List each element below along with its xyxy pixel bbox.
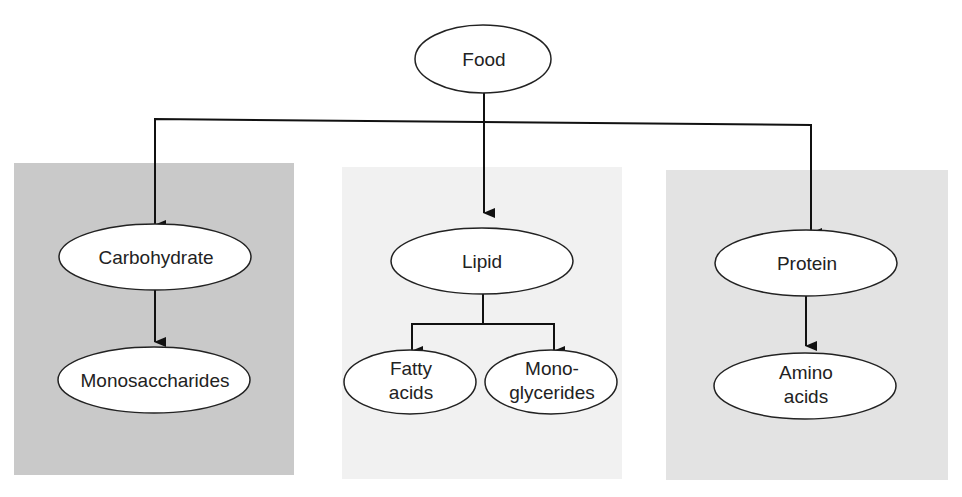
- mono-label: Mono-: [525, 358, 579, 379]
- carbohydrate-label: Carbohydrate: [98, 247, 213, 268]
- food-label: Food: [462, 49, 505, 70]
- protein-label: Protein: [777, 253, 837, 274]
- acids-label: acids: [389, 382, 433, 403]
- lipid-label: Lipid: [462, 251, 502, 272]
- digestion-diagram: Food Carbohydrate Monosaccharides Lipid …: [0, 0, 962, 497]
- monosaccharides-label: Monosaccharides: [81, 370, 230, 391]
- amino-label: Amino: [779, 362, 833, 383]
- glycerides-label: glycerides: [509, 382, 595, 403]
- fatty-label: Fatty: [390, 358, 433, 379]
- amino-acids-label: acids: [784, 386, 828, 407]
